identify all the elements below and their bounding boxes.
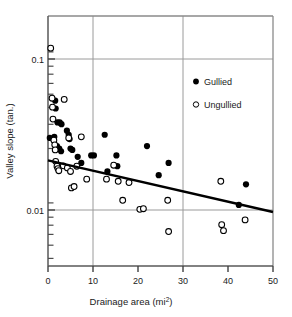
data-point-ungullied (84, 176, 90, 182)
x-axis-title-tail: ) (169, 296, 172, 307)
legend-marker-filled-circle-icon (193, 79, 199, 85)
data-point-gullied (166, 160, 172, 166)
data-point-ungullied (50, 116, 56, 122)
x-tick-label-10: 10 (88, 276, 98, 286)
x-axis-title: Drainage area (mi2) (90, 296, 173, 308)
data-point-gullied (69, 147, 75, 153)
x-tick-label-0: 0 (45, 276, 50, 286)
data-point-gullied (156, 172, 162, 178)
y-tick-labels: 0.1 0.01 (26, 55, 44, 216)
data-point-ungullied (141, 206, 147, 212)
data-point-ungullied (52, 147, 58, 153)
data-point-ungullied (242, 217, 248, 223)
data-point-gullied (102, 132, 108, 138)
x-axis-ticks (48, 266, 273, 272)
plot-background (48, 16, 273, 266)
x-tick-label-30: 30 (178, 276, 188, 286)
data-point-gullied (58, 148, 64, 154)
x-axis-title-main: Drainage area (mi (90, 296, 166, 307)
data-point-gullied (144, 143, 150, 149)
y-axis-title: Valley slope (tan.) (4, 103, 15, 178)
data-point-ungullied (56, 168, 62, 174)
data-point-ungullied (120, 197, 126, 203)
figure-container: 0.1 0.01 0 10 20 30 40 50 Drainage area … (0, 0, 292, 317)
legend-marker-open-circle-icon (193, 102, 198, 107)
data-point-ungullied (111, 162, 117, 168)
x-tick-labels: 0 10 20 30 40 50 (45, 276, 278, 286)
x-tick-label-40: 40 (223, 276, 233, 286)
data-point-ungullied (66, 135, 72, 141)
data-point-gullied (243, 181, 249, 187)
data-point-ungullied (48, 45, 54, 51)
data-point-ungullied (49, 95, 55, 101)
data-point-ungullied (115, 178, 121, 184)
x-tick-label-50: 50 (268, 276, 278, 286)
data-point-ungullied (61, 97, 67, 103)
scatter-chart: 0.1 0.01 0 10 20 30 40 50 Drainage area … (0, 0, 292, 317)
data-point-ungullied (71, 184, 77, 190)
data-point-ungullied (165, 197, 171, 203)
data-point-ungullied (219, 222, 225, 228)
data-point-gullied (75, 154, 81, 160)
data-point-ungullied (104, 176, 110, 182)
data-point-ungullied (50, 104, 56, 110)
legend-label-ungullied: Ungullied (204, 100, 242, 110)
data-point-gullied (91, 152, 97, 158)
y-tick-label-0.01: 0.01 (26, 206, 44, 216)
data-point-ungullied (221, 228, 227, 234)
y-tick-label-0.1: 0.1 (31, 55, 44, 65)
data-point-ungullied (218, 178, 224, 184)
data-point-ungullied (166, 229, 172, 235)
x-tick-label-20: 20 (133, 276, 143, 286)
legend-label-gullied: Gullied (204, 77, 232, 87)
data-point-ungullied (78, 134, 84, 140)
data-point-gullied (58, 121, 64, 127)
data-point-ungullied (68, 169, 74, 175)
data-point-gullied (113, 152, 119, 158)
